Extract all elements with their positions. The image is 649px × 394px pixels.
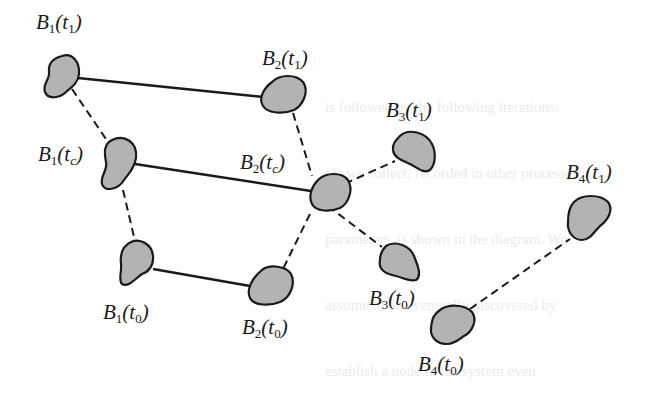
label-time-index: 1 — [598, 171, 605, 186]
label-base: B — [386, 98, 399, 122]
label-B4-t0: B4(t0) — [418, 352, 464, 379]
label-index: 1 — [116, 311, 123, 326]
label-time-index: 1 — [294, 57, 301, 72]
label-base: B — [103, 300, 116, 324]
edge-B1tc-B1t0 — [123, 190, 135, 241]
label-index: 1 — [49, 21, 56, 36]
label-base: B — [566, 160, 579, 184]
edge-B2t1-B2tc — [293, 113, 312, 176]
label-B3-t1: B3(t1) — [386, 98, 432, 125]
blob-B2-tc — [310, 174, 350, 211]
edge-B4t0-B4t1 — [470, 239, 570, 309]
label-base: B — [38, 142, 51, 166]
label-time-index: 1 — [418, 109, 425, 124]
blob-B1-t0 — [120, 241, 153, 285]
edge-B1t1-B1tc — [72, 89, 108, 142]
label-index: 1 — [51, 153, 58, 168]
label-base: B — [242, 315, 255, 339]
label-index: 3 — [382, 297, 389, 312]
label-time-index: c — [70, 153, 76, 168]
label-base: B — [369, 286, 382, 310]
label-time-index: 0 — [401, 297, 408, 312]
label-B2-t0: B2(t0) — [242, 315, 288, 342]
label-base: B — [262, 46, 275, 70]
label-time-index: c — [272, 161, 278, 176]
label-B1-t1: B1(t1) — [36, 10, 82, 37]
label-index: 4 — [431, 363, 438, 378]
label-time-index: 0 — [135, 311, 142, 326]
label-B4-t1: B4(t1) — [566, 160, 612, 187]
label-B1-tc: B1(tc) — [38, 142, 83, 169]
edge-B1t0-B2t0 — [153, 269, 250, 286]
label-index: 2 — [253, 161, 260, 176]
blob-tracking-diagram — [0, 0, 649, 394]
blob-B1-tc — [102, 138, 137, 189]
label-B3-t0: B3(t0) — [369, 286, 415, 313]
label-time-index: 1 — [68, 21, 75, 36]
edge-B2tc-B3t0 — [328, 206, 382, 247]
label-index: 2 — [275, 57, 282, 72]
label-index: 2 — [255, 326, 262, 341]
blob-B2-t0 — [249, 267, 293, 305]
blob-B4-t1 — [568, 196, 611, 240]
edge-B1t1-B2t1 — [78, 78, 263, 97]
label-B1-t0: B1(t0) — [103, 300, 149, 327]
blob-B3-t0 — [380, 244, 419, 281]
label-base: B — [418, 352, 431, 376]
label-time-index: 0 — [274, 326, 281, 341]
blob-B2-t1 — [261, 76, 306, 113]
label-B2-tc: B2(tc) — [240, 150, 285, 177]
edge-B2tc-B2t0 — [283, 214, 310, 269]
label-base: B — [36, 10, 49, 34]
label-base: B — [240, 150, 253, 174]
label-index: 4 — [579, 171, 586, 186]
label-B2-t1: B2(t1) — [262, 46, 308, 73]
blob-B3-t1 — [393, 132, 435, 171]
blob-B4-t0 — [431, 306, 475, 344]
label-index: 3 — [399, 109, 406, 124]
label-time-index: 0 — [450, 363, 457, 378]
